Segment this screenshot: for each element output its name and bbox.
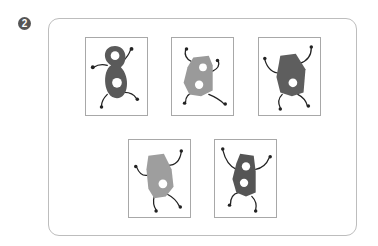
character-card-1[interactable]: [85, 37, 148, 116]
figure-eight-character-icon: [86, 38, 147, 115]
one-hole-hexagon-character-icon: [129, 140, 190, 217]
two-hole-hexagon-character-icon: [215, 140, 276, 217]
character-card-5[interactable]: [214, 139, 277, 218]
character-card-4[interactable]: [128, 139, 191, 218]
character-card-2[interactable]: [171, 37, 234, 116]
one-hole-hexagon-character-icon: [259, 38, 320, 115]
question-number-badge: 2: [18, 17, 31, 30]
two-hole-hexagon-character-icon: [172, 38, 233, 115]
character-card-3[interactable]: [258, 37, 321, 116]
